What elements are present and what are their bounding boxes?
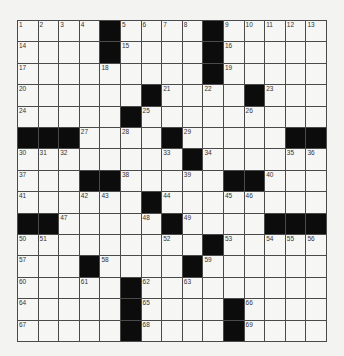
grid-cell[interactable] xyxy=(224,107,244,127)
grid-cell[interactable] xyxy=(183,192,203,212)
grid-cell[interactable] xyxy=(183,321,203,341)
grid-cell[interactable]: 16 xyxy=(224,42,244,62)
grid-cell[interactable] xyxy=(142,42,162,62)
grid-cell[interactable] xyxy=(306,278,326,298)
grid-cell[interactable] xyxy=(286,256,306,276)
grid-cell[interactable] xyxy=(100,214,120,234)
grid-cell[interactable]: 8 xyxy=(183,21,203,41)
grid-cell[interactable]: 54 xyxy=(265,235,285,255)
grid-cell[interactable] xyxy=(39,299,59,319)
grid-cell[interactable]: 47 xyxy=(59,214,79,234)
grid-cell[interactable]: 11 xyxy=(265,21,285,41)
grid-cell[interactable]: 24 xyxy=(18,107,38,127)
grid-cell[interactable] xyxy=(142,235,162,255)
grid-cell[interactable] xyxy=(265,42,285,62)
grid-cell[interactable]: 23 xyxy=(265,85,285,105)
grid-cell[interactable]: 17 xyxy=(18,64,38,84)
grid-cell[interactable]: 14 xyxy=(18,42,38,62)
grid-cell[interactable] xyxy=(142,171,162,191)
grid-cell[interactable] xyxy=(39,321,59,341)
grid-cell[interactable]: 57 xyxy=(18,256,38,276)
grid-cell[interactable] xyxy=(59,42,79,62)
grid-cell[interactable] xyxy=(100,278,120,298)
grid-cell[interactable] xyxy=(121,85,141,105)
grid-cell[interactable] xyxy=(100,299,120,319)
grid-cell[interactable] xyxy=(59,299,79,319)
grid-cell[interactable] xyxy=(245,64,265,84)
grid-cell[interactable] xyxy=(265,149,285,169)
grid-cell[interactable] xyxy=(59,278,79,298)
grid-cell[interactable] xyxy=(162,299,182,319)
grid-cell[interactable] xyxy=(121,235,141,255)
grid-cell[interactable] xyxy=(245,235,265,255)
grid-cell[interactable]: 22 xyxy=(203,85,223,105)
grid-cell[interactable]: 43 xyxy=(100,192,120,212)
grid-cell[interactable]: 60 xyxy=(18,278,38,298)
grid-cell[interactable] xyxy=(286,171,306,191)
grid-cell[interactable] xyxy=(100,128,120,148)
grid-cell[interactable]: 41 xyxy=(18,192,38,212)
grid-cell[interactable]: 55 xyxy=(286,235,306,255)
grid-cell[interactable] xyxy=(203,107,223,127)
grid-cell[interactable]: 49 xyxy=(183,214,203,234)
grid-cell[interactable] xyxy=(59,171,79,191)
grid-cell[interactable]: 28 xyxy=(121,128,141,148)
grid-cell[interactable]: 30 xyxy=(18,149,38,169)
grid-cell[interactable] xyxy=(80,321,100,341)
grid-cell[interactable] xyxy=(121,256,141,276)
grid-cell[interactable] xyxy=(203,278,223,298)
grid-cell[interactable]: 65 xyxy=(142,299,162,319)
grid-cell[interactable] xyxy=(224,85,244,105)
grid-cell[interactable] xyxy=(39,107,59,127)
grid-cell[interactable]: 7 xyxy=(162,21,182,41)
grid-cell[interactable] xyxy=(286,192,306,212)
grid-cell[interactable] xyxy=(39,171,59,191)
grid-cell[interactable] xyxy=(183,64,203,84)
grid-cell[interactable]: 26 xyxy=(245,107,265,127)
grid-cell[interactable]: 1 xyxy=(18,21,38,41)
grid-cell[interactable] xyxy=(183,107,203,127)
grid-cell[interactable] xyxy=(245,128,265,148)
grid-cell[interactable] xyxy=(121,214,141,234)
grid-cell[interactable] xyxy=(183,85,203,105)
grid-cell[interactable]: 62 xyxy=(142,278,162,298)
grid-cell[interactable] xyxy=(245,149,265,169)
grid-cell[interactable] xyxy=(286,64,306,84)
grid-cell[interactable] xyxy=(306,42,326,62)
grid-cell[interactable]: 42 xyxy=(80,192,100,212)
grid-cell[interactable] xyxy=(162,107,182,127)
grid-cell[interactable] xyxy=(100,107,120,127)
grid-cell[interactable] xyxy=(203,299,223,319)
grid-cell[interactable] xyxy=(100,85,120,105)
grid-cell[interactable] xyxy=(59,107,79,127)
grid-cell[interactable]: 67 xyxy=(18,321,38,341)
grid-cell[interactable] xyxy=(306,256,326,276)
grid-cell[interactable] xyxy=(306,321,326,341)
grid-cell[interactable] xyxy=(39,64,59,84)
grid-cell[interactable]: 44 xyxy=(162,192,182,212)
grid-cell[interactable] xyxy=(142,256,162,276)
grid-cell[interactable] xyxy=(142,64,162,84)
grid-cell[interactable] xyxy=(265,299,285,319)
grid-cell[interactable]: 37 xyxy=(18,171,38,191)
grid-cell[interactable] xyxy=(306,192,326,212)
grid-cell[interactable] xyxy=(162,64,182,84)
grid-cell[interactable]: 4 xyxy=(80,21,100,41)
grid-cell[interactable] xyxy=(142,128,162,148)
grid-cell[interactable]: 15 xyxy=(121,42,141,62)
grid-cell[interactable]: 31 xyxy=(39,149,59,169)
grid-cell[interactable] xyxy=(39,42,59,62)
grid-cell[interactable]: 5 xyxy=(121,21,141,41)
grid-cell[interactable]: 13 xyxy=(306,21,326,41)
grid-cell[interactable] xyxy=(203,171,223,191)
grid-cell[interactable]: 52 xyxy=(162,235,182,255)
grid-cell[interactable] xyxy=(59,256,79,276)
grid-cell[interactable] xyxy=(265,64,285,84)
grid-cell[interactable] xyxy=(286,107,306,127)
grid-cell[interactable] xyxy=(39,192,59,212)
grid-cell[interactable] xyxy=(162,256,182,276)
grid-cell[interactable]: 6 xyxy=(142,21,162,41)
grid-cell[interactable] xyxy=(203,214,223,234)
grid-cell[interactable] xyxy=(286,85,306,105)
grid-cell[interactable] xyxy=(162,171,182,191)
